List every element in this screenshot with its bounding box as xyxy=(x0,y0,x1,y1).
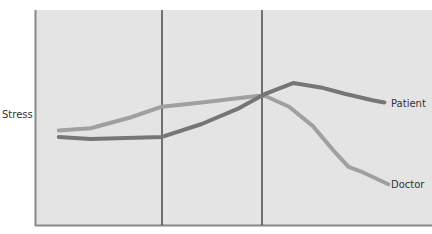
stress-line-chart: Stress Patient Doctor xyxy=(0,0,432,234)
series-label-patient: Patient xyxy=(391,98,426,109)
plot-area xyxy=(35,10,432,225)
series-label-doctor: Doctor xyxy=(391,179,425,190)
y-axis-label: Stress xyxy=(2,109,33,120)
